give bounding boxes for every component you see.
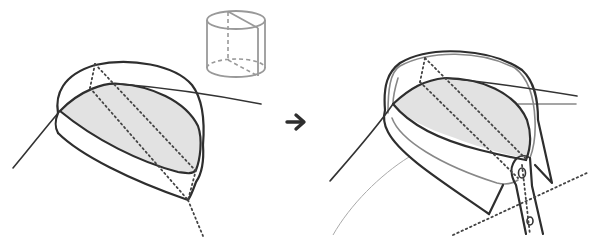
arrow-right-icon [287, 115, 304, 129]
neckline-shaded-area [60, 84, 201, 174]
reference-cylinder-icon [207, 11, 265, 77]
diagram-canvas [0, 0, 594, 247]
right-finished-collar [330, 51, 589, 235]
left-collar-construction [13, 62, 261, 236]
collar-construction-diagram [0, 0, 594, 247]
neckline-shaded-area [393, 78, 530, 158]
